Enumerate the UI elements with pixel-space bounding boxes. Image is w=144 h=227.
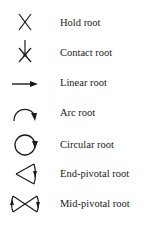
legend-label: Hold root [60,16,101,30]
legend-label: End-pivotal root [60,167,129,181]
legend-item-arc-root: Arc root [0,100,144,126]
linear-root-icon [10,70,40,96]
legend-item-linear-root: Linear root [0,70,144,96]
legend-label: Linear root [60,76,107,90]
legend-item-circular-root: Circular root [0,132,144,158]
legend-item-hold-root: Hold root [0,10,144,36]
legend-label: Circular root [60,138,114,152]
contact-root-icon [10,40,40,66]
legend-item-end-pivotal-root: End-pivotal root [0,161,144,187]
circular-root-icon [10,132,40,158]
legend-label: Arc root [60,106,95,120]
legend-label: Contact root [60,46,112,60]
hold-root-icon [10,10,40,36]
arc-root-icon [10,100,40,126]
legend-label: Mid-pivotal root [60,197,130,211]
end-pivotal-root-icon [10,161,40,187]
mid-pivotal-root-icon [10,191,40,217]
legend-item-contact-root: Contact root [0,40,144,66]
legend-item-mid-pivotal-root: Mid-pivotal root [0,191,144,217]
